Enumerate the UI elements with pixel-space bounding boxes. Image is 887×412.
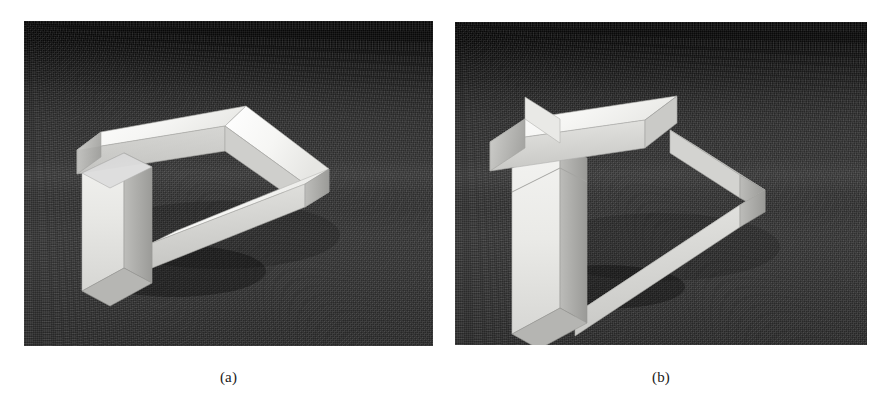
photo-impossible-triangle-illusory — [24, 21, 433, 346]
caption-panel-b: (b) — [455, 370, 867, 385]
figure-panel-b — [455, 22, 867, 345]
caption-panel-a: (a) — [24, 370, 433, 385]
photo-impossible-triangle-revealed — [455, 22, 867, 345]
impossible-triangle-model-b — [455, 22, 867, 345]
figure-root: (a) — [0, 0, 887, 412]
impossible-triangle-model-a — [24, 21, 433, 346]
bar-right-upper-inner-face — [670, 130, 740, 198]
figure-panel-a — [24, 21, 433, 346]
